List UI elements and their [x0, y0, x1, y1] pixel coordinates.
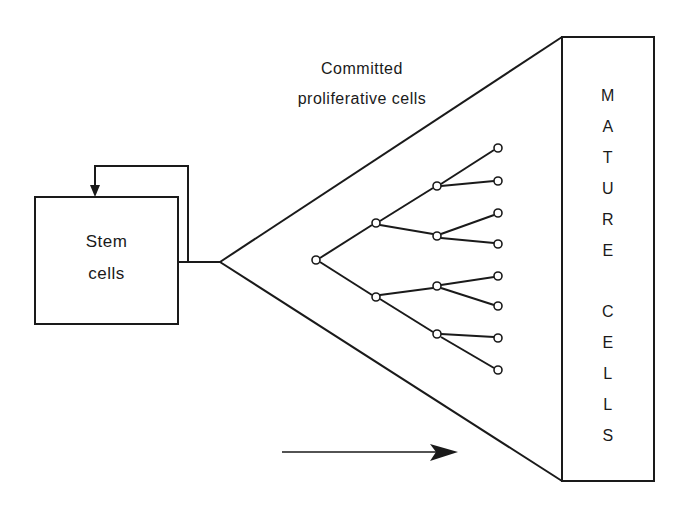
- mature-letter: R: [562, 204, 654, 235]
- cells-letter: S: [562, 420, 654, 451]
- mature-cells-label: M A T U R E C E L L S: [562, 80, 654, 451]
- tree-node: [433, 232, 441, 240]
- mature-letter: M: [562, 80, 654, 111]
- stem-cells-label-line2: cells: [35, 258, 178, 290]
- mature-letter: T: [562, 142, 654, 173]
- division-tree-edges: [320, 150, 494, 368]
- tree-node: [433, 330, 441, 338]
- committed-label-line1: Committed: [262, 54, 462, 84]
- tree-node: [433, 182, 441, 190]
- self-renewal-arrowhead-icon: [90, 185, 100, 197]
- stem-cells-label: Stem cells: [35, 226, 178, 290]
- tree-node-root: [312, 256, 320, 264]
- cells-letter: L: [562, 389, 654, 420]
- tree-node-leaf: [494, 209, 502, 217]
- tree-node: [372, 219, 380, 227]
- committed-label-line2: proliferative cells: [262, 84, 462, 114]
- mature-letter: A: [562, 111, 654, 142]
- mature-letter: E: [562, 235, 654, 266]
- tree-node: [433, 282, 441, 290]
- tree-node-leaf: [494, 302, 502, 310]
- cells-letter: L: [562, 358, 654, 389]
- tree-node-leaf: [494, 366, 502, 374]
- tree-node-leaf: [494, 334, 502, 342]
- cells-letter: C: [562, 296, 654, 327]
- tree-node-leaf: [494, 177, 502, 185]
- tree-node-leaf: [494, 240, 502, 248]
- cells-letter: E: [562, 327, 654, 358]
- committed-compartment-bottom-edge: [220, 262, 562, 481]
- stem-cells-label-line1: Stem: [35, 226, 178, 258]
- mature-letter: U: [562, 173, 654, 204]
- tree-node-leaf: [494, 144, 502, 152]
- tree-node: [372, 293, 380, 301]
- word-gap: [562, 266, 654, 296]
- tree-node-leaf: [494, 272, 502, 280]
- committed-proliferative-label: Committed proliferative cells: [262, 54, 462, 114]
